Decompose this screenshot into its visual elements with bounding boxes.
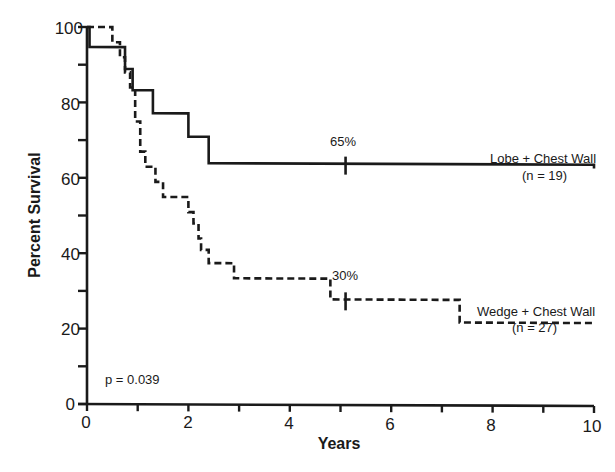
lobe-n-label: (n = 19)	[522, 168, 567, 183]
lobe-name-label: Lobe + Chest Wall	[490, 151, 596, 166]
y-axis	[78, 27, 87, 404]
y-axis-title: Percent Survival	[26, 152, 43, 277]
x-tick-label: 10	[583, 417, 602, 436]
y-tick-label: 0	[66, 395, 75, 414]
y-tick-label: 80	[61, 95, 80, 114]
wedge-pct-label: 30%	[332, 268, 358, 283]
y-tick-label: 100	[55, 19, 83, 38]
x-axis	[78, 404, 594, 413]
x-tick-label: 8	[486, 416, 495, 435]
x-tick-label: 4	[284, 414, 293, 433]
x-tick-label: 0	[81, 413, 90, 432]
p-value-label: p = 0.039	[105, 372, 160, 387]
y-tick-label: 20	[61, 320, 80, 339]
y-tick-label: 60	[61, 170, 80, 189]
x-axis-title: Years	[318, 435, 361, 452]
x-tick-label: 2	[183, 413, 192, 432]
x-tick-label: 6	[385, 415, 394, 434]
survival-chart: 0 20 40 60 80 100 0 2 4 6 8 10 Years Per…	[0, 0, 615, 472]
lobe-pct-label: 65%	[330, 134, 356, 149]
wedge-n-label: (n = 27)	[512, 320, 557, 335]
wedge-name-label: Wedge + Chest Wall	[477, 304, 595, 319]
y-tick-label: 40	[61, 245, 80, 264]
